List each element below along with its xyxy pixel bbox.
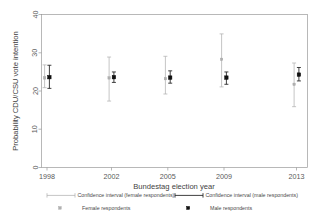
dot-whisker-plot: 0 10 20 30 40 Probability CDU/CSU vote i… (0, 0, 320, 220)
point-marker (293, 83, 295, 85)
legend-marker-male (187, 207, 190, 210)
legend-marker-female (59, 207, 62, 210)
legend-item-pt-female: Female respondents (59, 205, 131, 211)
chart-legend: Confidence interval (female respondents)… (47, 192, 298, 210)
point-marker (220, 58, 222, 60)
x-axis-tick-labels: 1998 2002 2005 2009 2013 (39, 172, 305, 181)
x-axis-ticks (47, 168, 297, 171)
point-marker (297, 73, 300, 76)
legend-label-ci-female: Confidence interval (female respondents) (78, 192, 175, 198)
legend-label-male: Male respondents (210, 205, 252, 211)
chart-canvas: 0 10 20 30 40 Probability CDU/CSU vote i… (0, 0, 320, 220)
point-marker (164, 77, 166, 79)
y-tick-label-0: 0 (31, 166, 40, 170)
series-male (47, 65, 301, 88)
datapoint-2013-female (292, 63, 296, 107)
data-series-layer (43, 34, 301, 107)
datapoint-2002-female (107, 57, 111, 101)
x-tick-label-2002: 2002 (104, 172, 120, 181)
x-tick-label-1998: 1998 (39, 172, 55, 181)
point-marker (48, 75, 51, 78)
point-marker (112, 75, 115, 78)
x-tick-label-2013: 2013 (289, 172, 305, 181)
point-marker (169, 76, 172, 79)
y-tick-label-30: 30 (31, 49, 40, 57)
x-axis-title: Bundestag election year (133, 182, 215, 191)
legend-label-female: Female respondents (82, 205, 131, 211)
datapoint-1998-female (43, 65, 47, 88)
point-marker (108, 77, 110, 79)
chart-figure: 0 10 20 30 40 Probability CDU/CSU vote i… (0, 0, 320, 220)
series-female (43, 34, 297, 107)
datapoint-2009-female (220, 34, 224, 87)
y-tick-label-10: 10 (31, 125, 40, 133)
legend-item-ci-female: Confidence interval (female respondents) (47, 192, 175, 198)
point-marker (43, 77, 45, 79)
legend-item-ci-male: Confidence interval (male respondents) (175, 192, 298, 198)
x-tick-label-2009: 2009 (216, 172, 232, 181)
y-axis-title: Probability CDU/CSU vote intention (11, 31, 20, 150)
y-tick-label-20: 20 (31, 87, 40, 95)
datapoint-2013-male (297, 67, 301, 80)
y-tick-label-40: 40 (31, 11, 40, 19)
x-tick-label-2005: 2005 (160, 172, 176, 181)
plot-frame (42, 15, 308, 168)
legend-label-ci-male: Confidence interval (male respondents) (206, 192, 299, 198)
point-marker (225, 76, 228, 79)
datapoint-2009-male (224, 72, 228, 84)
datapoint-2005-female (163, 56, 167, 94)
legend-item-pt-male: Male respondents (187, 205, 253, 211)
y-axis-tick-labels: 0 10 20 30 40 (31, 11, 40, 170)
datapoint-1998-male (47, 65, 51, 88)
datapoint-2005-male (168, 71, 172, 83)
datapoint-2002-male (112, 72, 116, 82)
